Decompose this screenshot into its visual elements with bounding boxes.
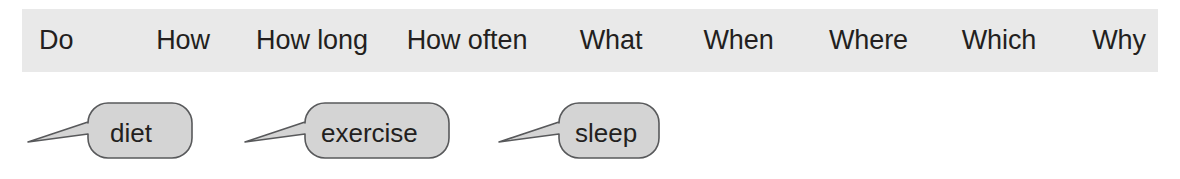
speech-bubble-shape-icon [241, 96, 453, 179]
question-word-how-long[interactable]: How long [237, 27, 387, 54]
question-word-how[interactable]: How [129, 27, 237, 54]
question-word-where[interactable]: Where [802, 27, 935, 54]
question-word-when[interactable]: When [675, 27, 802, 54]
question-word-band: Do How How long How often What When Wher… [22, 9, 1158, 72]
question-word-how-often[interactable]: How often [387, 27, 547, 54]
speech-bubble-shape-icon [24, 96, 196, 179]
topic-bubble-sleep[interactable]: sleep [495, 96, 663, 179]
question-word-why[interactable]: Why [1063, 27, 1175, 54]
question-word-which[interactable]: Which [935, 27, 1063, 54]
question-word-do[interactable]: Do [22, 27, 129, 54]
topic-bubble-exercise[interactable]: exercise [241, 96, 453, 179]
question-words-figure: Do How How long How often What When Wher… [0, 0, 1180, 179]
speech-bubble-shape-icon [495, 96, 663, 179]
topic-bubble-row: diet exercise sleep [0, 96, 1180, 179]
topic-bubble-diet[interactable]: diet [24, 96, 196, 179]
question-word-what[interactable]: What [547, 27, 675, 54]
